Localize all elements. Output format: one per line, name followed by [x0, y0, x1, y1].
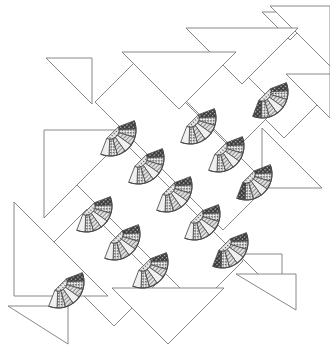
quilt-canvas: [0, 0, 330, 350]
quilt-figure: [0, 0, 330, 350]
